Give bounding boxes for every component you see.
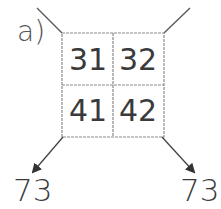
result-right: 73: [180, 175, 219, 206]
result-left: 73: [13, 175, 52, 206]
diagram: a) 31 32 41 42 73 73: [0, 0, 221, 209]
grid-cell-top-left: 31: [63, 45, 113, 75]
problem-label: a): [17, 18, 45, 46]
right-arrow-icon: [162, 137, 194, 172]
grid-cell-top-right: 32: [113, 45, 163, 75]
left-arrow-icon: [33, 137, 63, 172]
grid-cell-bottom-left: 41: [63, 96, 113, 126]
top-right-diagonal: [164, 8, 190, 33]
grid-cell-bottom-right: 42: [113, 96, 163, 126]
